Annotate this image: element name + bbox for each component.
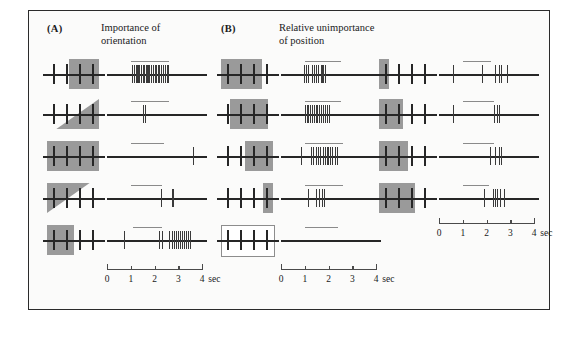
- spike-train-plot: [281, 183, 381, 213]
- spike: [499, 105, 500, 123]
- time-axis-tick: [281, 264, 282, 270]
- panel-a-title-line2: orientation: [101, 35, 147, 46]
- spike: [159, 231, 160, 249]
- time-axis-label: 3: [170, 274, 186, 284]
- receptive-field-tick: [240, 188, 242, 208]
- receptive-field-tick: [92, 104, 94, 124]
- time-axis-tick: [155, 266, 156, 270]
- receptive-field-tick: [240, 230, 242, 250]
- receptive-field-tick: [266, 188, 268, 208]
- receptive-field-tick: [411, 104, 413, 124]
- receptive-field-diagram: [47, 99, 99, 129]
- receptive-field-tick: [79, 64, 81, 84]
- time-axis-tick: [305, 266, 306, 270]
- spike-train-plot: [439, 141, 539, 171]
- spike: [304, 65, 305, 83]
- receptive-field-tick: [253, 188, 255, 208]
- spike-train-plot: [439, 183, 539, 213]
- time-axis-label: 0: [273, 274, 289, 284]
- receptive-field-tick: [253, 230, 255, 250]
- panel-b-title-line2: of position: [279, 35, 324, 46]
- spike-train-plot: [439, 99, 539, 129]
- figure-frame: (A) Importance of orientation (B) Relati…: [28, 10, 550, 310]
- receptive-field-diagram: [221, 183, 273, 213]
- receptive-field-tick: [398, 146, 400, 166]
- receptive-field-tick: [424, 104, 426, 124]
- spike: [124, 231, 125, 249]
- receptive-field-tick: [79, 146, 81, 166]
- spike-train-plot: [281, 59, 381, 89]
- time-axis-label: 3: [502, 228, 518, 238]
- time-axis-tick: [487, 220, 488, 224]
- stimulus-duration-bar: [463, 101, 494, 102]
- time-axis-tick: [178, 266, 179, 270]
- receptive-field-tick: [53, 104, 55, 124]
- receptive-field-tick: [66, 64, 68, 84]
- spike: [327, 147, 328, 165]
- receptive-field-tick: [66, 146, 68, 166]
- receptive-field-tick: [92, 64, 94, 84]
- spike: [495, 147, 496, 165]
- time-axis-label: 1: [123, 274, 139, 284]
- panel-a-tag: (A): [47, 23, 62, 34]
- spike-train-plot: [107, 225, 207, 255]
- receptive-field-tick: [385, 146, 387, 166]
- spike-train-baseline: [281, 198, 381, 200]
- spike-train-plot: [107, 141, 207, 171]
- stimulus-duration-bar: [305, 61, 341, 62]
- spike: [495, 189, 496, 207]
- receptive-field-tick: [227, 146, 229, 166]
- receptive-field-tick: [411, 146, 413, 166]
- receptive-field-tick: [240, 64, 242, 84]
- time-axis-tick: [131, 266, 132, 270]
- panel-b-tag: (B): [221, 23, 236, 34]
- spike: [190, 231, 191, 249]
- receptive-field-tick: [92, 188, 94, 208]
- spike-train-plot: [281, 99, 381, 129]
- receptive-field-tick: [227, 64, 229, 84]
- stimulus-duration-bar: [131, 101, 169, 102]
- spike: [172, 189, 173, 207]
- time-axis-label: 1: [297, 274, 313, 284]
- spike: [482, 65, 483, 83]
- time-axis-tick: [202, 264, 203, 270]
- receptive-field-tick: [266, 104, 268, 124]
- time-axis-unit-label: sec: [540, 228, 552, 238]
- spike: [453, 65, 454, 83]
- receptive-field-tick: [240, 146, 242, 166]
- stimulus-duration-bar: [305, 143, 343, 144]
- stimulus-duration-bar: [305, 227, 338, 228]
- receptive-field-tick: [385, 104, 387, 124]
- spike-train-plot: [439, 59, 539, 89]
- spike-train-plot: [107, 99, 207, 129]
- time-axis-unit-label: sec: [208, 274, 220, 284]
- receptive-field-tick: [424, 188, 426, 208]
- spike: [501, 147, 502, 165]
- time-axis-tick: [439, 218, 440, 224]
- receptive-field-tick: [227, 104, 229, 124]
- spike: [494, 105, 495, 123]
- stimulus-duration-bar: [305, 185, 343, 186]
- receptive-field-tick: [398, 64, 400, 84]
- spike: [162, 231, 163, 249]
- spike: [322, 189, 323, 207]
- receptive-field-tick: [253, 146, 255, 166]
- time-axis-tick: [510, 220, 511, 224]
- spike-train-plot: [107, 59, 207, 89]
- time-axis-tick: [376, 264, 377, 270]
- spike: [507, 65, 508, 83]
- spike-train-baseline: [281, 74, 381, 76]
- panel-a-title: Importance of orientation: [101, 22, 221, 47]
- spike-train-baseline: [107, 240, 207, 242]
- receptive-field-tick: [424, 146, 426, 166]
- receptive-field-tick: [398, 188, 400, 208]
- spike: [484, 189, 485, 207]
- receptive-field-diagram: [47, 183, 99, 213]
- spike: [318, 147, 319, 165]
- stimulus-duration-bar: [131, 61, 169, 62]
- panel-b-title: Relative unimportance of position: [279, 22, 439, 47]
- spike: [316, 147, 317, 165]
- time-axis-unit-label: sec: [382, 274, 394, 284]
- receptive-field-tick: [79, 104, 81, 124]
- spike-train-plot: [107, 183, 207, 213]
